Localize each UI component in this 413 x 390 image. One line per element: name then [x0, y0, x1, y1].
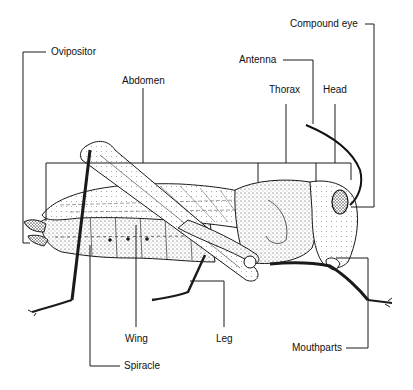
label-leg: Leg	[216, 333, 233, 345]
label-abdomen: Abdomen	[122, 75, 165, 87]
label-mouthparts: Mouthparts	[292, 342, 342, 354]
label-compound-eye: Compound eye	[290, 18, 358, 30]
label-ovipositor: Ovipositor	[51, 46, 96, 58]
grasshopper-illustration	[0, 0, 413, 390]
label-spiracle: Spiracle	[124, 360, 160, 372]
label-head: Head	[323, 84, 347, 96]
grasshopper-diagram: Ovipositor Abdomen Antenna Compound eye …	[0, 0, 413, 390]
label-thorax: Thorax	[269, 84, 300, 96]
label-wing: Wing	[125, 333, 148, 345]
grasshopper-body	[24, 125, 392, 316]
label-antenna: Antenna	[239, 54, 276, 66]
